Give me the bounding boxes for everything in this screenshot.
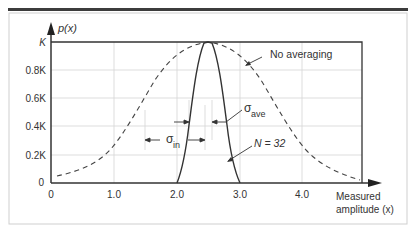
y-tick-0: 0	[38, 177, 44, 188]
n32-label: N = 32	[254, 137, 285, 149]
y-axis-label: p(x)	[57, 22, 77, 34]
no-averaging-curve	[57, 42, 360, 180]
y-tick-0.8K: 0.8K	[25, 65, 46, 76]
chart-figure: p(x) K 0.8K 0.6K 0.4K 0.2K 0 0 1.0 2.0 3…	[0, 0, 413, 232]
x-tick-3: 3.0	[233, 189, 247, 200]
grid	[51, 42, 362, 183]
n32-curve	[177, 42, 240, 183]
sigma-ave-arrows	[174, 110, 242, 124]
x-tick-4: 4.0	[295, 189, 309, 200]
y-tick-0.6K: 0.6K	[25, 93, 46, 104]
sigma-in-label: σ in	[166, 132, 180, 150]
svg-text:ave: ave	[251, 109, 266, 119]
y-tick-K: K	[39, 37, 47, 48]
x-axis-label-line2: amplitude (x)	[336, 204, 394, 215]
no-averaging-label: No averaging	[270, 48, 333, 60]
plot-box	[51, 42, 362, 183]
x-axis-label-line1: Measured	[336, 191, 380, 202]
x-tick-1: 1.0	[107, 189, 121, 200]
y-tick-0.4K: 0.4K	[25, 121, 46, 132]
y-axis-arrow-icon	[47, 22, 55, 35]
y-tick-0.2K: 0.2K	[25, 150, 46, 161]
x-tick-0: 0	[48, 189, 54, 200]
top-rule	[8, 8, 408, 11]
svg-text:in: in	[173, 140, 180, 150]
x-tick-2: 2.0	[170, 189, 184, 200]
sigma-ave-label: σ ave	[244, 101, 266, 119]
x-axis-arrow-icon	[368, 179, 382, 187]
